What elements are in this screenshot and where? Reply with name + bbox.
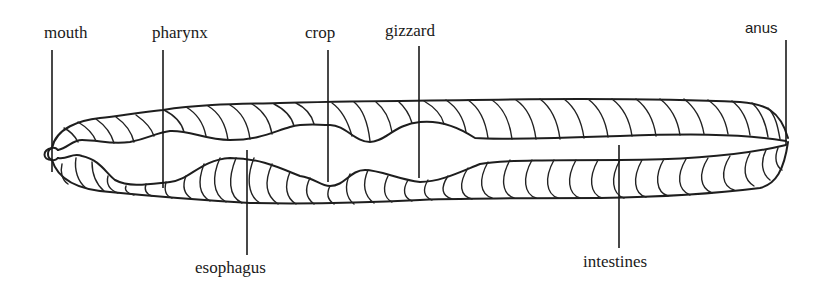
gut-lower-wall <box>58 145 786 186</box>
label-crop: crop <box>305 24 335 41</box>
earthworm-illustration <box>0 0 829 298</box>
label-intestines: intestines <box>583 253 647 270</box>
label-anus: anus <box>745 20 778 35</box>
label-esophagus: esophagus <box>195 259 266 276</box>
earthworm-digestive-diagram: mouth pharynx crop gizzard anus esophagu… <box>0 0 829 298</box>
mouth-curl <box>48 148 58 160</box>
label-mouth: mouth <box>44 24 87 41</box>
label-pharynx: pharynx <box>152 24 208 41</box>
label-gizzard: gizzard <box>385 22 435 39</box>
gut-upper-wall <box>58 122 786 150</box>
